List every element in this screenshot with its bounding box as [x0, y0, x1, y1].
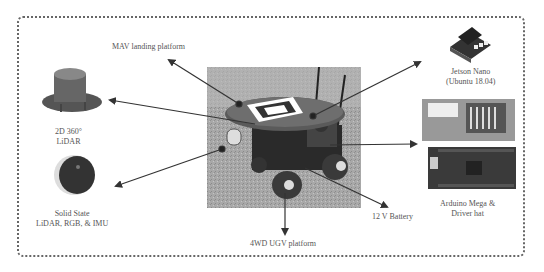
arrow-arduino [330, 144, 416, 145]
label-line: Arduino Mega & [440, 199, 495, 209]
label-line: MAV landing platform [112, 42, 185, 52]
label-mav-landing-platform: MAV landing platform [112, 42, 185, 52]
label-4wd-ugv: 4WD UGV platform [250, 239, 316, 249]
label-line: (Ubuntu 18.04) [446, 77, 495, 87]
label-jetson-nano: Jetson Nano (Ubuntu 18.04) [446, 67, 495, 87]
arrow-solid-state [116, 149, 222, 186]
label-line: 2D 360° [55, 127, 82, 137]
label-line: Driver hat [440, 209, 495, 219]
label-line: 4WD UGV platform [250, 239, 316, 249]
arrow-mav [169, 60, 239, 104]
label-arduino-mega: Arduino Mega & Driver hat [440, 199, 495, 219]
arrow-battery [305, 168, 387, 207]
solid-state-lidar-image [50, 150, 100, 200]
arrow-lidar2d [110, 100, 255, 124]
label-line: Jetson Nano [446, 67, 495, 77]
label-solid-state: Solid State LiDAR, RGB, & IMU [36, 209, 108, 229]
label-line: Solid State [36, 209, 108, 219]
label-line: LiDAR [55, 137, 82, 147]
label-line: LiDAR, RGB, & IMU [36, 219, 108, 229]
arduino-mega-image [428, 147, 516, 189]
label-line: 12 V Battery [372, 212, 413, 222]
lidar-2d-image [40, 62, 105, 117]
jetson-nano-image [448, 23, 493, 65]
label-12v-battery: 12 V Battery [372, 212, 413, 222]
label-2d-lidar: 2D 360° LiDAR [55, 127, 82, 147]
arrow-jetson [313, 62, 420, 116]
driver-hat-image [422, 99, 515, 141]
